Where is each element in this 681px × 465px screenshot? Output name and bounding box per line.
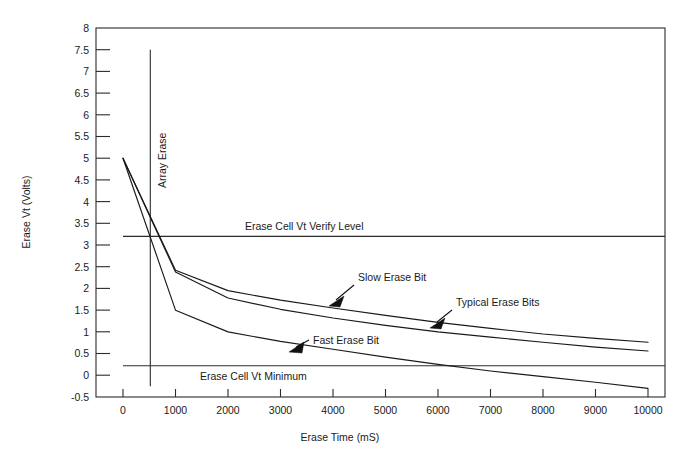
y-axis-ticks	[96, 50, 110, 376]
y-tick-label: 4	[83, 196, 89, 208]
x-tick-label: 10000	[633, 404, 662, 416]
annotation-fast-erase-bit: Fast Erase Bit	[289, 334, 379, 353]
x-tick-label: 5000	[374, 404, 398, 416]
y-tick-label: 6	[83, 109, 89, 121]
annotation-fast-erase-bit-label: Fast Erase Bit	[313, 334, 379, 346]
erase-vt-vs-erase-time-figure: 8 7.5 7 6.5 6 5.5 5 4.5 4 3.5 3 2.5 2 1.…	[0, 0, 681, 465]
y-tick-label: 5	[83, 152, 89, 164]
y-axis-tick-labels: 8 7.5 7 6.5 6 5.5 5 4.5 4 3.5 3 2.5 2 1.…	[71, 22, 89, 403]
y-tick-label: 2.5	[74, 261, 89, 273]
y-tick-label: 1.5	[74, 304, 89, 316]
series-line-typical-erase-bits	[123, 158, 648, 351]
y-tick-label: -0.5	[71, 391, 89, 403]
x-tick-label: 2000	[216, 404, 240, 416]
y-tick-label: 7	[83, 65, 89, 77]
y-tick-label: 6.5	[74, 87, 89, 99]
x-tick-label: 1000	[164, 404, 188, 416]
y-tick-label: 7.5	[74, 44, 89, 56]
x-tick-label: 4000	[321, 404, 345, 416]
annotation-typical-erase-bits: Typical Erase Bits	[430, 296, 539, 329]
y-tick-label: 4.5	[74, 174, 89, 186]
y-tick-label: 0.5	[74, 347, 89, 359]
y-tick-label: 0	[83, 369, 89, 381]
x-tick-label: 6000	[426, 404, 450, 416]
y-tick-label: 2	[83, 282, 89, 294]
x-tick-label: 8000	[531, 404, 555, 416]
y-tick-label: 3	[83, 239, 89, 251]
x-axis-tick-labels: 0 1000 2000 3000 4000 5000 6000 7000 800…	[120, 404, 663, 416]
y-tick-label: 3.5	[74, 217, 89, 229]
x-tick-label: 7000	[479, 404, 503, 416]
y-axis-title: Erase Vt (Volts)	[20, 176, 32, 249]
annotation-typical-erase-bits-label: Typical Erase Bits	[456, 296, 539, 308]
arrow-head-icon	[329, 296, 344, 307]
annotation-slow-erase-bit: Slow Erase Bit	[329, 271, 426, 307]
x-axis-title: Erase Time (mS)	[301, 431, 380, 443]
reference-line-array-erase-label: Array Erase	[156, 132, 168, 188]
y-tick-label: 5.5	[74, 130, 89, 142]
x-axis-ticks	[123, 389, 648, 397]
annotation-slow-erase-bit-label: Slow Erase Bit	[358, 271, 426, 283]
reference-line-verify-level-label: Erase Cell Vt Verify Level	[245, 220, 363, 232]
reference-line-minimum-label: Erase Cell Vt Minimum	[200, 370, 307, 382]
y-tick-label: 1	[83, 326, 89, 338]
x-tick-label: 3000	[269, 404, 293, 416]
arrow-head-icon	[430, 318, 445, 329]
chart-canvas: 8 7.5 7 6.5 6 5.5 5 4.5 4 3.5 3 2.5 2 1.…	[0, 0, 681, 465]
x-tick-label: 9000	[584, 404, 608, 416]
y-tick-label: 8	[83, 22, 89, 34]
plot-frame	[96, 28, 665, 397]
series-line-slow-erase-bit	[123, 158, 648, 342]
x-tick-label: 0	[120, 404, 126, 416]
